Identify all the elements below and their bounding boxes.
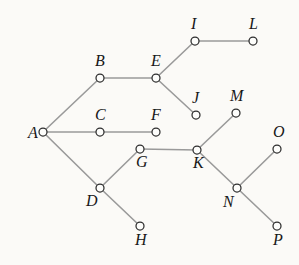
graph-figure: ABCDEFGHIJKLMNOP <box>0 0 299 265</box>
graph-node-C[interactable] <box>96 128 104 136</box>
graph-node-label-F: F <box>151 107 161 123</box>
graph-canvas <box>0 0 299 265</box>
graph-edge-N-O <box>237 149 277 188</box>
graph-node-label-M: M <box>230 88 243 104</box>
graph-edge-G-K <box>140 149 197 150</box>
graph-edge-E-J <box>156 78 196 115</box>
graph-node-E[interactable] <box>152 74 160 82</box>
graph-node-label-I: I <box>191 16 196 32</box>
graph-node-label-G: G <box>136 154 148 170</box>
graph-node-label-P: P <box>273 232 283 248</box>
graph-node-label-B: B <box>95 53 105 69</box>
graph-node-O[interactable] <box>273 145 281 153</box>
graph-edge-D-H <box>100 188 140 226</box>
graph-node-label-O: O <box>273 124 285 140</box>
graph-node-I[interactable] <box>191 37 199 45</box>
graph-node-L[interactable] <box>249 37 257 45</box>
graph-node-label-H: H <box>135 232 147 248</box>
graph-node-label-N: N <box>223 194 234 210</box>
graph-edge-A-B <box>43 78 100 132</box>
graph-edge-E-I <box>156 41 195 78</box>
graph-node-label-J: J <box>192 90 199 106</box>
graph-node-A[interactable] <box>39 128 47 136</box>
graph-edge-N-P <box>237 188 277 226</box>
graph-node-label-C: C <box>95 107 106 123</box>
graph-node-G[interactable] <box>136 145 144 153</box>
graph-edge-D-G <box>100 149 140 188</box>
graph-node-M[interactable] <box>232 109 240 117</box>
graph-node-F[interactable] <box>152 128 160 136</box>
graph-node-N[interactable] <box>233 184 241 192</box>
graph-node-label-L: L <box>249 16 258 32</box>
graph-node-label-A: A <box>28 125 38 141</box>
graph-edge-A-D <box>43 132 100 188</box>
graph-node-label-D: D <box>86 193 98 209</box>
graph-edge-K-M <box>197 113 236 150</box>
graph-node-J[interactable] <box>192 111 200 119</box>
graph-node-label-E: E <box>151 53 161 69</box>
graph-node-D[interactable] <box>96 184 104 192</box>
graph-node-P[interactable] <box>273 222 281 230</box>
graph-node-K[interactable] <box>193 146 201 154</box>
graph-node-B[interactable] <box>96 74 104 82</box>
graph-node-H[interactable] <box>136 222 144 230</box>
graph-node-label-K: K <box>193 155 204 171</box>
